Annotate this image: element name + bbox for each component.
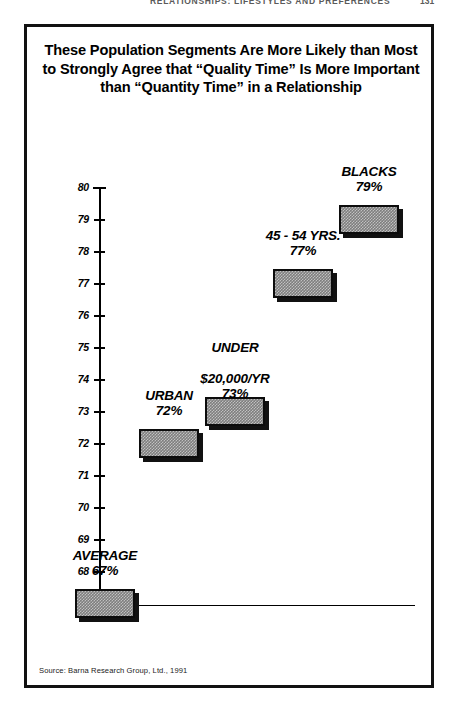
y-tick-70	[94, 507, 105, 509]
y-tick-75	[94, 347, 105, 349]
y-tick-label-73: 73	[65, 405, 89, 417]
y-tick-label-71-wrap: 71	[59, 469, 89, 481]
page-header-title: RELATIONSHIPS: LIFESTYLES AND PREFERENCE…	[150, 0, 390, 6]
data-label-average-pct: 67%	[43, 563, 167, 579]
page-running-header: RELATIONSHIPS: LIFESTYLES AND PREFERENCE…	[0, 0, 464, 9]
y-tick-label-71: 71	[65, 469, 89, 481]
y-tick-label-78: 78	[65, 245, 89, 257]
y-tick-label-80: 80	[65, 181, 89, 193]
plot-area: 80 79 78 77 76 75 74 73	[27, 27, 431, 685]
y-tick-78	[94, 251, 105, 253]
y-tick-label-75-wrap: 75	[59, 341, 89, 353]
data-label-under-line1: UNDER	[211, 340, 258, 355]
baseline-67	[100, 605, 415, 606]
y-tick-73	[94, 411, 105, 413]
data-label-average: AVERAGE 67%	[43, 532, 167, 594]
data-label-age-pct: 77%	[235, 243, 371, 259]
data-label-under-20000: UNDER $20,000/YR 73%	[173, 324, 297, 417]
y-tick-71	[94, 475, 105, 477]
y-tick-label-80-wrap: 80	[59, 181, 89, 193]
y-tick-label-73-wrap: 73	[59, 405, 89, 417]
y-tick-label-75: 75	[65, 341, 89, 353]
data-label-under-pct: 73%	[173, 386, 297, 402]
y-tick-74	[94, 379, 105, 381]
data-label-under-line2: $20,000/YR	[200, 371, 269, 386]
y-tick-80	[93, 187, 106, 189]
y-tick-label-79: 79	[65, 213, 89, 225]
y-tick-label-72-wrap: 72	[59, 437, 89, 449]
y-tick-label-74-wrap: 74	[59, 373, 89, 385]
data-label-blacks-name: BLACKS	[341, 164, 396, 179]
y-tick-76	[94, 315, 105, 317]
source-note: Source: Barna Research Group, Ltd., 1991	[39, 666, 187, 675]
y-tick-label-70-wrap: 70	[59, 501, 89, 513]
y-tick-label-70: 70	[65, 501, 89, 513]
y-tick-label-77-wrap: 77	[59, 277, 89, 289]
y-tick-label-77: 77	[65, 277, 89, 289]
y-tick-label-78-wrap: 78	[59, 245, 89, 257]
data-label-average-name: AVERAGE	[73, 548, 137, 563]
y-tick-label-72: 72	[65, 437, 89, 449]
page-number: 131	[420, 0, 434, 6]
y-tick-label-76: 76	[65, 309, 89, 321]
figure-frame: These Population Segments Are More Likel…	[24, 24, 434, 688]
y-tick-72	[94, 443, 105, 445]
y-tick-label-74: 74	[65, 373, 89, 385]
data-label-blacks: BLACKS 79%	[307, 148, 431, 210]
y-tick-77	[94, 283, 105, 285]
y-tick-label-76-wrap: 76	[59, 309, 89, 321]
data-label-blacks-pct: 79%	[307, 179, 431, 195]
data-label-age-name: 45 - 54 YRS.	[266, 228, 341, 243]
y-tick-79	[94, 219, 105, 221]
y-tick-label-79-wrap: 79	[59, 213, 89, 225]
